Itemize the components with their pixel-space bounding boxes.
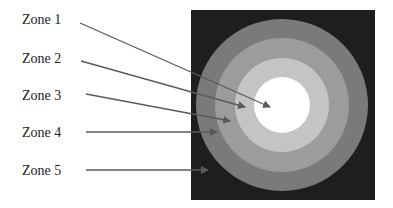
zone-1-core [254,77,310,133]
zone-3-label: Zone 3 [22,88,61,104]
zone-5-label: Zone 5 [22,163,61,179]
zone-diagram: Zone 1 Zone 2 Zone 3 Zone 4 Zone 5 [0,0,393,208]
zone-4-label: Zone 4 [22,125,61,141]
zone-2-label: Zone 2 [22,51,61,67]
zone-1-label: Zone 1 [22,12,61,28]
